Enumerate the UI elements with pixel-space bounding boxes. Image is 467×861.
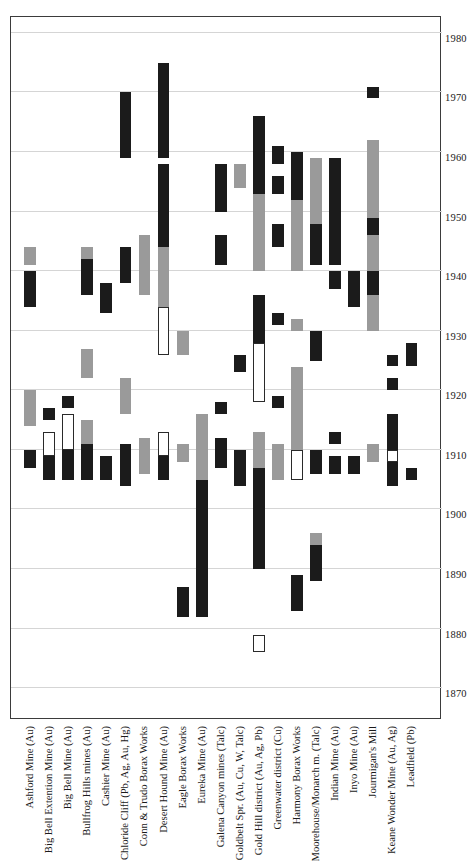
category-label: Chloride Cliff (Pb, Ag, Au, Hg) bbox=[120, 726, 131, 860]
timeline-bar bbox=[215, 402, 227, 414]
category-label: Moorehouse/Monarch m. (Talc) bbox=[311, 726, 322, 861]
timeline-bar bbox=[158, 307, 170, 355]
timeline-bar bbox=[367, 218, 379, 236]
timeline-bar bbox=[406, 468, 418, 480]
chart-frame: 1870188018901900191019201930194019501960… bbox=[10, 16, 441, 719]
time-axis-tick-label: 1880 bbox=[445, 629, 467, 640]
timeline-bar bbox=[272, 444, 284, 480]
timeline-bar bbox=[253, 194, 265, 271]
timeline-bar bbox=[387, 414, 399, 450]
timeline-bar bbox=[310, 450, 322, 474]
category-label: Jourmigan's Mill bbox=[368, 726, 379, 798]
gridline bbox=[11, 568, 442, 569]
timeline-bar bbox=[120, 444, 132, 486]
timeline-bar bbox=[158, 432, 170, 456]
gridline bbox=[11, 32, 442, 33]
timeline-bar bbox=[348, 271, 360, 307]
category-label: Eureka Mine (Au) bbox=[196, 726, 207, 804]
timeline-bar bbox=[387, 462, 399, 474]
timeline-bar bbox=[310, 331, 322, 361]
timeline-bar bbox=[81, 259, 93, 295]
timeline-bar bbox=[196, 414, 208, 432]
category-label: Ashford Mine (Au) bbox=[25, 726, 36, 808]
category-label: Gold Hill district (Au, Ag, Pb) bbox=[254, 726, 265, 855]
timeline-bar bbox=[158, 456, 170, 480]
timeline-bar bbox=[253, 295, 265, 343]
timeline-bar bbox=[329, 271, 341, 289]
timeline-bar bbox=[367, 271, 379, 295]
gridline bbox=[11, 389, 442, 390]
category-label: Eagle Borax Works bbox=[177, 726, 188, 809]
time-axis-tick-label: 1900 bbox=[445, 509, 467, 520]
category-label: Bullfrog Hills mines (Au) bbox=[82, 726, 93, 836]
timeline-bar bbox=[139, 235, 151, 295]
time-axis-tick-label: 1890 bbox=[445, 569, 467, 580]
timeline-bar bbox=[81, 349, 93, 379]
gridline bbox=[11, 508, 442, 509]
timeline-bar bbox=[43, 456, 55, 480]
timeline-bar bbox=[215, 164, 227, 212]
category-label: Desert Hound Mine (Au) bbox=[158, 726, 169, 833]
timeline-bar bbox=[120, 378, 132, 414]
timeline-bar bbox=[81, 247, 93, 259]
category-label: Cashier Mine (Au) bbox=[101, 726, 112, 806]
timeline-bar bbox=[310, 158, 322, 224]
timeline-bar bbox=[253, 116, 265, 193]
timeline-bar bbox=[253, 468, 265, 569]
timeline-bar bbox=[272, 224, 284, 248]
timeline-bar bbox=[291, 200, 303, 271]
timeline-bar bbox=[310, 533, 322, 545]
category-label: Leadfield (Pb) bbox=[406, 726, 417, 787]
timeline-bar bbox=[367, 295, 379, 331]
timeline-bar bbox=[120, 247, 132, 283]
timeline-bar bbox=[367, 140, 379, 217]
timeline-bar bbox=[387, 378, 399, 390]
time-axis-tick-label: 1910 bbox=[445, 450, 467, 461]
time-axis-tick-label: 1870 bbox=[445, 688, 467, 699]
timeline-bar bbox=[100, 456, 112, 480]
gridline bbox=[11, 687, 442, 688]
timeline-bar bbox=[253, 432, 265, 468]
timeline-bar bbox=[367, 235, 379, 271]
timeline-bar bbox=[81, 444, 93, 480]
timeline-bar bbox=[291, 152, 303, 200]
timeline-bar bbox=[234, 164, 246, 188]
timeline-bar bbox=[24, 271, 36, 307]
timeline-bar bbox=[387, 450, 399, 462]
time-axis-tick-label: 1960 bbox=[445, 152, 467, 163]
timeline-bar bbox=[139, 438, 151, 474]
category-label: Big Bell Extention Mine (Au) bbox=[44, 726, 55, 853]
timeline-bar bbox=[272, 396, 284, 408]
timeline-bar bbox=[100, 283, 112, 313]
timeline-bar bbox=[253, 635, 265, 653]
timeline-bar bbox=[62, 414, 74, 450]
timeline-bar bbox=[196, 480, 208, 575]
timeline-bar bbox=[329, 158, 341, 265]
timeline-bar bbox=[291, 367, 303, 450]
timeline-bar bbox=[291, 319, 303, 331]
gridline bbox=[11, 628, 442, 629]
category-label: Keane Wonder Mine (Au, Ag) bbox=[387, 726, 398, 854]
timeline-bar bbox=[158, 247, 170, 307]
time-axis-tick-label: 1930 bbox=[445, 331, 467, 342]
time-axis-tick-label: 1970 bbox=[445, 92, 467, 103]
timeline-bar bbox=[81, 420, 93, 444]
timeline-bar bbox=[387, 355, 399, 367]
timeline-bar bbox=[272, 176, 284, 194]
timeline-bar bbox=[215, 235, 227, 265]
timeline-bar bbox=[291, 450, 303, 480]
timeline-bar bbox=[62, 450, 74, 480]
timeline-bar bbox=[329, 432, 341, 444]
timeline-bar bbox=[215, 438, 227, 468]
timeline-bar bbox=[24, 390, 36, 426]
timeline-bar bbox=[310, 224, 322, 266]
category-label: Indian Mine (Au) bbox=[330, 726, 341, 801]
time-axis-tick-label: 1980 bbox=[445, 33, 467, 44]
timeline-bar bbox=[367, 444, 379, 462]
timeline-bar bbox=[158, 63, 170, 158]
category-label: Big Bell Mine (Au) bbox=[63, 726, 74, 809]
timeline-bar bbox=[177, 331, 189, 355]
category-label: Conn & Trudo Borax Works bbox=[139, 726, 150, 846]
